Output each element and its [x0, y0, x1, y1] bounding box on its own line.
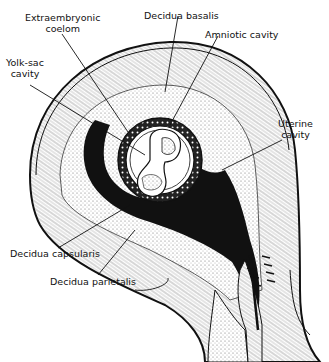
label-decidua-parietalis: Decidua parietalis: [50, 276, 136, 287]
label-yolk-sac-cavity: Yolk-sac cavity: [6, 57, 44, 79]
label-amniotic-cavity: Amniotic cavity: [205, 29, 279, 40]
label-decidua-basalis: Decidua basalis: [144, 10, 219, 21]
uterus-diagram: Extraembryonic coelom Decidua basalis Am…: [0, 0, 329, 362]
diagram-artwork: [0, 0, 329, 362]
label-extraembryonic-coelom: Extraembryonic coelom: [25, 12, 100, 34]
label-uterine-cavity: Uterine cavity: [278, 118, 313, 140]
label-decidua-capsularis: Decidua capsularis: [10, 248, 100, 259]
